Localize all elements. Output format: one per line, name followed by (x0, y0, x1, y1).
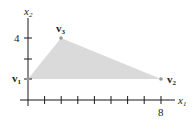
vertex-v2-label: v2 (167, 74, 176, 87)
x-tick-label-8: 8 (158, 107, 164, 118)
vertex-v1-label: v1 (12, 73, 21, 86)
vertex-v3-point (59, 36, 63, 40)
shaded-triangle (28, 38, 161, 79)
y-axis-label: x2 (24, 6, 32, 19)
x-axis-label: x1 (178, 95, 186, 108)
vertex-v3-label: v3 (56, 23, 65, 36)
y-tick-label-4: 4 (14, 33, 20, 44)
vertex-v2-point (159, 77, 163, 81)
vertex-v1-point (26, 77, 30, 81)
